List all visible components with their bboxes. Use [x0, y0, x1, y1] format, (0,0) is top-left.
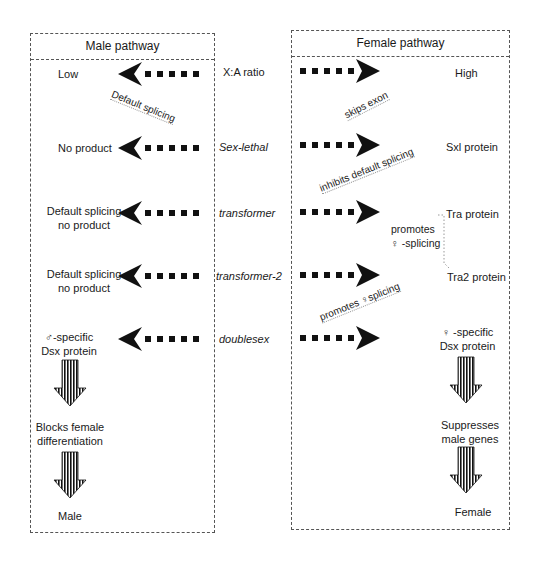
gene-xa-ratio: X:A ratio	[223, 66, 265, 78]
female-pathway-title: Female pathway	[292, 31, 509, 57]
male-stage-sxl: No product	[40, 141, 130, 155]
male-pathway-title: Male pathway	[31, 34, 214, 60]
gene-sex-lethal: Sex-lethal	[219, 141, 268, 153]
male-arrow-tra2	[118, 264, 208, 288]
female-stage-high: High	[455, 66, 478, 80]
annotation-promotes-tra-bracket	[436, 213, 456, 273]
male-outcome-male: Male	[50, 509, 90, 523]
female-arrow-xa	[300, 59, 390, 83]
female-stage-dsx: ♀ -specific Dsx protein	[430, 325, 505, 353]
male-arrow-xa	[118, 62, 208, 86]
female-arrow-tra	[300, 200, 390, 224]
female-arrow-dsx	[300, 326, 390, 350]
female-outcome-female: Female	[448, 505, 498, 519]
annotation-promotes-tra: promotes ♀ -splicing	[391, 222, 440, 250]
female-down-arrow-2	[448, 447, 484, 495]
male-down-arrow-1	[52, 360, 88, 408]
male-arrow-tra	[118, 201, 208, 225]
male-stage-low: Low	[58, 67, 78, 81]
female-outcome-suppresses: Suppresses male genes	[435, 418, 505, 446]
gene-doublesex: doublesex	[219, 333, 269, 345]
female-arrow-sxl	[300, 133, 390, 157]
male-outcome-blocks: Blocks female differentiation	[30, 420, 110, 448]
male-arrow-dsx	[118, 327, 208, 351]
gene-transformer-2: transformer-2	[216, 270, 282, 282]
male-down-arrow-2	[52, 452, 88, 500]
female-arrow-tra2	[300, 263, 390, 287]
male-arrow-sxl	[118, 136, 208, 160]
female-down-arrow-1	[448, 357, 484, 405]
male-stage-dsx: ♂-specific Dsx protein	[34, 330, 104, 358]
gene-transformer: transformer	[219, 207, 275, 219]
female-stage-sxl: Sxl protein	[446, 140, 498, 154]
